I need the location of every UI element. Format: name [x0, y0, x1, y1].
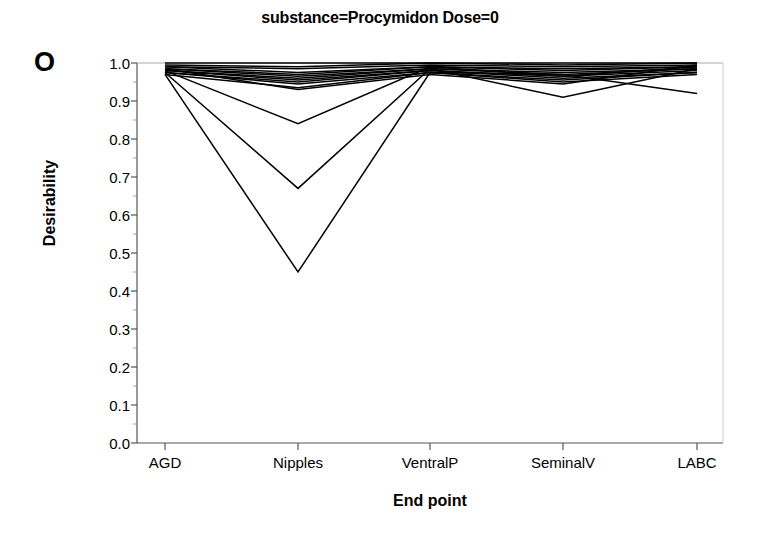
data-line [165, 69, 697, 189]
plot-area [0, 0, 760, 558]
data-series-group [165, 63, 697, 272]
chart-figure: O substance=Procymidon Dose=0 Desirabili… [0, 0, 760, 558]
x-major-ticks [165, 443, 697, 450]
